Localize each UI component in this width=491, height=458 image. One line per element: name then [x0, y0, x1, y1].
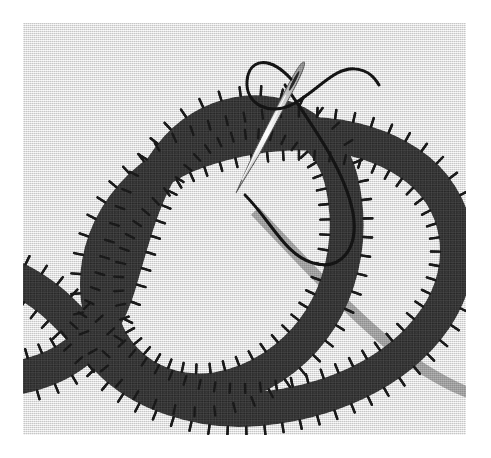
knot-artwork: [23, 23, 466, 435]
blanket-stitch-tick: [313, 175, 321, 178]
blanket-stitch-tick: [407, 188, 413, 194]
blanket-stitch-tick: [142, 268, 151, 271]
blanket-stitch-tick: [335, 364, 338, 372]
blanket-stitch-tick: [57, 277, 63, 284]
blanket-stitch-tick: [42, 321, 48, 328]
blanket-stitch-tick: [283, 151, 284, 160]
blanket-stitch-tick: [181, 110, 186, 117]
blanket-stitch-tick: [440, 340, 447, 346]
blanket-stitch-tick: [223, 361, 225, 370]
blanket-stitch-tick: [50, 339, 55, 347]
blanket-stitch-tick: [80, 233, 88, 236]
blanket-stitch-tick: [53, 332, 59, 338]
blanket-stitch-tick: [219, 92, 222, 101]
blanket-stitch-tick: [87, 370, 94, 376]
blanket-stitch-tick: [220, 162, 222, 171]
blanket-stitch-tick: [437, 157, 443, 163]
blanket-stitch-tick: [134, 338, 141, 344]
fabric-panel: [23, 23, 466, 435]
blanket-stitch-tick: [151, 236, 160, 239]
blanket-stitch-tick: [190, 422, 192, 431]
blanket-stitch-tick: [38, 345, 41, 353]
blanket-stitch-tick: [352, 292, 360, 295]
blanket-stitch-tick: [397, 179, 402, 186]
blanket-stitch-tick: [349, 358, 353, 366]
blanket-stitch-tick: [37, 391, 39, 400]
blanket-stitch-tick: [276, 381, 277, 390]
blanket-stitch-tick: [375, 343, 380, 350]
blanket-stitch-tick: [282, 423, 283, 432]
blanket-stitch-tick: [397, 324, 403, 330]
blanket-stitch-tick: [168, 360, 171, 368]
blanket-stitch-tick: [155, 354, 160, 362]
blanket-stitch-tick: [372, 164, 375, 172]
blanket-stitch-tick: [260, 383, 261, 392]
blanket-stitch-tick: [405, 133, 409, 141]
blanket-stitch-tick: [272, 335, 278, 342]
blanket-stitch-tick: [422, 211, 430, 215]
blanket-stitch-tick: [190, 173, 194, 181]
blanket-stitch-tick: [308, 163, 316, 168]
blanket-stitch-tick: [428, 354, 434, 360]
blanket-stitch-tick: [267, 153, 268, 162]
blanket-stitch-tick: [204, 167, 207, 176]
blanket-stitch-tick: [399, 378, 404, 385]
blanket-stitch-tick: [334, 410, 337, 419]
blanket-stitch-tick: [351, 404, 354, 412]
blanket-stitch-tick: [31, 311, 37, 318]
blanket-stitch-tick: [362, 351, 367, 359]
blanket-stitch-tick: [427, 277, 436, 280]
blanket-stitch-tick: [460, 191, 466, 195]
blanket-stitch-tick: [144, 347, 150, 354]
blanket-stitch-tick: [110, 181, 117, 187]
blanket-stitch-tick: [422, 290, 430, 294]
blanket-stitch-tick: [389, 125, 392, 133]
blanket-stitch-tick: [214, 407, 215, 416]
blanket-stitch-tick: [319, 249, 328, 250]
blanket-stitch-tick: [361, 255, 370, 256]
blanket-stitch-tick: [174, 405, 176, 414]
blanket-stitch-tick: [317, 189, 326, 191]
blanket-stitch-tick: [317, 108, 318, 117]
blanket-stitch-tick: [137, 285, 146, 288]
blanket-stitch-tick: [153, 411, 156, 419]
blanket-stitch-tick: [208, 425, 209, 434]
blanket-stitch-tick: [291, 378, 293, 387]
blanket-stitch-tick: [118, 394, 123, 402]
blanket-stitch-tick: [353, 113, 355, 122]
blanket-stitch-tick: [210, 364, 211, 373]
blanket-stitch-tick: [450, 173, 457, 178]
blanket-stitch-tick: [306, 374, 308, 383]
blanket-stitch-tick: [301, 152, 308, 158]
blanket-stitch-tick: [236, 357, 239, 365]
blanket-stitch-tick: [146, 252, 155, 255]
blanket-stitch-tick: [461, 308, 466, 312]
blanket-stitch-tick: [430, 237, 439, 238]
blanket-stitch-tick: [285, 379, 290, 386]
blanket-stitch-tick: [25, 349, 27, 358]
blanket-stitch-tick: [317, 416, 319, 425]
blanket-stitch-tick: [126, 328, 134, 332]
blanket-stitch-tick: [362, 199, 371, 200]
blanket-stitch-tick: [262, 110, 263, 119]
blanket-stitch-tick: [319, 204, 328, 205]
blanket-stitch-tick: [385, 171, 389, 179]
blanket-stitch-tick: [182, 363, 184, 372]
blanket-stitch-tick: [282, 325, 289, 331]
blanket-stitch-tick: [249, 351, 253, 359]
blanket-stitch-tick: [335, 110, 336, 119]
blanket-stitch-tick: [451, 325, 459, 330]
blanket-stitch-tick: [261, 344, 266, 351]
blanket-stitch-tick: [336, 325, 344, 330]
blanket-stitch-tick: [292, 315, 299, 320]
blanket-stitch-tick: [98, 197, 106, 202]
blanket-stitch-tick: [102, 383, 108, 390]
blanket-stitch-tick: [74, 253, 83, 255]
blanket-stitch-tick: [415, 199, 422, 204]
blanket-stitch-tick: [326, 341, 333, 346]
blanket-stitch-tick: [240, 87, 241, 96]
blanket-stitch-tick: [422, 144, 427, 151]
blanket-stitch-tick: [371, 118, 374, 127]
blanket-stitch-tick: [314, 151, 315, 160]
blanket-stitch-tick: [124, 319, 132, 323]
